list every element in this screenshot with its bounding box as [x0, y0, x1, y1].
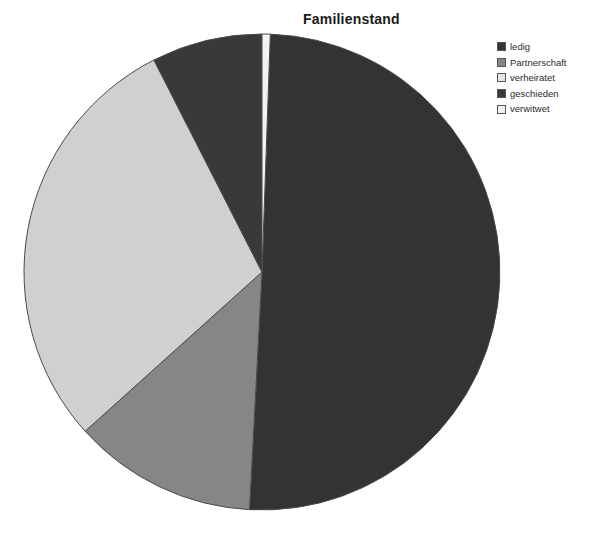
legend-item-ledig[interactable]: ledig — [497, 39, 603, 55]
legend-swatch-icon — [497, 105, 506, 114]
legend-item-label: verheiratet — [510, 73, 555, 83]
legend-swatch-icon — [497, 58, 506, 67]
legend-swatch-icon — [497, 73, 506, 82]
pie-slice-group — [24, 34, 500, 510]
legend-item-verheiratet[interactable]: verheiratet — [497, 70, 603, 86]
legend-item-partnerschaft[interactable]: Partnerschaft — [497, 55, 603, 71]
legend-item-label: verwitwet — [510, 104, 550, 114]
legend-item-label: ledig — [510, 42, 530, 52]
chart-legend: ledig Partnerschaft verheiratet geschied… — [497, 39, 603, 117]
pie-slice-ledig[interactable] — [250, 34, 500, 510]
legend-swatch-icon — [497, 42, 506, 51]
legend-swatch-icon — [497, 89, 506, 98]
legend-item-label: geschieden — [510, 89, 559, 99]
legend-item-label: Partnerschaft — [510, 58, 567, 68]
pie-plot-area — [0, 0, 520, 548]
pie-chart-figure: Familienstand ledig Partnerschaft verhei… — [0, 0, 607, 548]
pie-svg — [0, 0, 520, 548]
legend-item-geschieden[interactable]: geschieden — [497, 86, 603, 102]
legend-item-verwitwet[interactable]: verwitwet — [497, 101, 603, 117]
